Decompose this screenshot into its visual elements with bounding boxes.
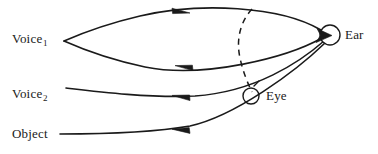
label-voice1-subscript: 1 (43, 38, 48, 48)
label-voice2-subscript: 2 (43, 93, 48, 103)
label-object: Object (12, 126, 48, 142)
edge-voice1-lower-outgoing (64, 38, 322, 70)
arrowhead-voice2 (172, 95, 190, 101)
edge-ear-eye-dashed-arc (239, 9, 253, 92)
label-voice1: Voice1 (12, 31, 47, 47)
label-voice2: Voice2 (12, 86, 47, 102)
label-voice2-text: Voice (12, 86, 42, 101)
label-voice1-text: Voice (12, 31, 42, 46)
edge-voice1-upper-return (64, 8, 321, 41)
diagram-svg (0, 0, 378, 154)
label-eye: Eye (266, 88, 287, 104)
diagram-canvas: Voice1 Voice2 Object Ear Eye (0, 0, 378, 154)
label-ear: Ear (345, 27, 364, 43)
